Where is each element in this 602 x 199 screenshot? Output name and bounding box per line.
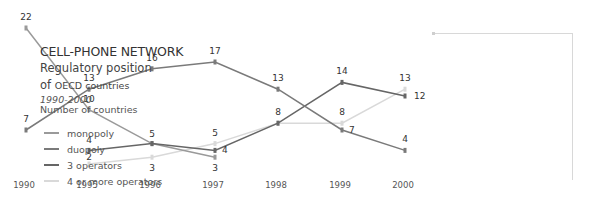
data-label: 12 [414,91,425,101]
data-point-marker [341,121,344,126]
x-tick-label: 1995 [76,180,98,190]
series-line-3-operators [89,82,405,150]
legend-subtitle-prefix: of [40,78,51,92]
legend-unit: Number of countries [40,104,138,115]
data-point-marker [214,155,217,160]
data-point-marker [404,87,407,92]
data-label: 3 [212,163,218,173]
legend-label: 3 operators [67,160,122,171]
data-point-marker [151,155,154,160]
series-line-4-or-more-operators [89,89,405,164]
data-label: 13 [272,73,283,83]
x-tick-label: 1997 [202,180,224,190]
data-label: 14 [336,66,348,76]
data-point-marker [151,141,154,146]
data-label: 3 [149,163,155,173]
data-point-marker [214,60,217,65]
data-label: 4 [402,134,408,144]
legend-swatch [44,180,59,182]
data-label: 13 [399,73,410,83]
legend-swatch [44,132,59,134]
data-point-marker [341,80,344,85]
data-point-marker [277,87,280,92]
legend-subtitle: Regulatory position [40,61,152,75]
data-point-marker [404,94,407,99]
legend-swatch [44,164,59,166]
x-tick-label: 1990 [13,180,35,190]
data-point-marker [404,148,407,153]
legend-item: monopoly [44,126,114,140]
x-tick-label: 1999 [329,180,351,190]
data-label: 7 [349,125,355,135]
legend-label: duopoly [67,144,105,155]
data-point-marker [214,141,217,146]
legend-item: 3 operators [44,158,122,172]
data-point-marker [341,128,344,133]
data-point-marker [214,148,217,153]
data-label: 7 [23,114,29,124]
x-tick-label: 2000 [392,180,414,190]
data-label: 5 [212,128,218,138]
data-label: 17 [209,46,220,56]
data-point-marker [25,26,28,31]
data-label: 8 [275,107,281,117]
legend-swatch [44,148,59,150]
data-point-marker [25,128,28,133]
x-tick-label: 1996 [139,180,161,190]
legend-label: monopoly [67,128,114,139]
data-label: 8 [339,107,345,117]
legend-subtitle-rest: OECD countries [55,80,130,91]
data-label: 5 [149,129,155,139]
legend-corner-dot [432,32,435,35]
legend-subtitle-oecd: of OECD countries [40,78,129,92]
data-label: 22 [20,12,31,22]
legend-item: duopoly [44,142,105,156]
x-tick-label: 1998 [265,180,287,190]
legend-title: CELL-PHONE NETWORK [40,44,183,59]
data-label: 4 [222,145,228,155]
data-point-marker [277,121,280,126]
legend-box [434,33,573,180]
